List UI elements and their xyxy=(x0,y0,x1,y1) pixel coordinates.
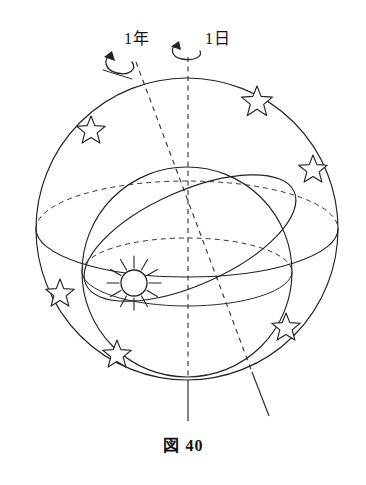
rotation-arrow xyxy=(171,41,201,60)
sun-ray xyxy=(121,260,127,270)
sun-ray xyxy=(142,260,148,270)
revolution-arrow-leader xyxy=(103,70,132,79)
sun-ray xyxy=(147,270,157,276)
star-icon xyxy=(77,116,105,143)
star-icon xyxy=(46,279,74,306)
sun-symbol xyxy=(107,256,161,310)
figure-caption: 図40 xyxy=(0,432,366,456)
label-one-year: 1年 xyxy=(124,31,149,47)
caption-number: 40 xyxy=(186,437,204,454)
star-icon xyxy=(272,313,300,340)
sun-ray xyxy=(147,291,157,297)
orbital-axis-tilted-dashed xyxy=(136,62,252,372)
star-icon xyxy=(299,155,327,182)
figure-40: 1年 1日 図40 xyxy=(0,0,366,485)
inner-sphere-equator-back xyxy=(82,238,292,272)
orbital-axis-tilted-solid xyxy=(252,372,269,416)
sun-disc xyxy=(121,270,147,296)
label-one-day: 1日 xyxy=(205,31,230,47)
celestial-equator-ring-front xyxy=(36,229,338,277)
caption-prefix: 図 xyxy=(163,437,180,454)
sun-ray xyxy=(111,291,121,297)
revolution-arrow xyxy=(103,51,134,79)
revolution-arrow-head xyxy=(104,51,115,61)
sun-ray xyxy=(142,296,148,306)
celestial-sphere-diagram xyxy=(0,0,366,485)
